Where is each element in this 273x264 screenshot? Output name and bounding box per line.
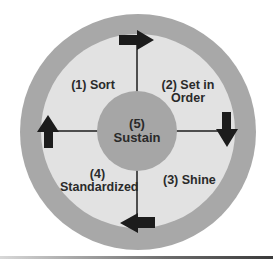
standardized-label: Standardized <box>60 181 135 194</box>
quadrant-set-in-order: (2) Set in Order <box>160 79 216 105</box>
sort-label: (1) Sort <box>71 78 115 92</box>
bottom-rule <box>0 256 273 259</box>
quadrant-sort: (1) Sort <box>68 79 118 92</box>
set-in-order-line2: Order <box>160 92 216 105</box>
quadrant-shine: (3) Shine <box>163 174 215 187</box>
sustain-number: (5) <box>112 117 162 131</box>
five-s-diagram: (1) Sort (2) Set in Order (5) Sustain (4… <box>0 0 273 264</box>
sustain-label: Sustain <box>112 131 162 145</box>
quadrant-standardized: (4) Standardized <box>60 168 135 194</box>
center-sustain: (5) Sustain <box>112 117 162 145</box>
shine-label: (3) Shine <box>163 173 216 187</box>
